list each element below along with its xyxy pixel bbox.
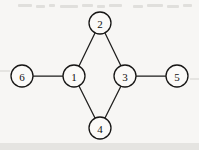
graph-canvas: 123456 <box>0 0 199 150</box>
edge-1-2 <box>79 33 95 66</box>
edge-4-3 <box>105 86 121 118</box>
node-label-5: 5 <box>174 71 180 83</box>
node-label-4: 4 <box>97 123 103 135</box>
node-label-6: 6 <box>19 71 25 83</box>
graph-node-6: 6 <box>11 65 33 87</box>
edge-2-3 <box>105 33 121 66</box>
edge-1-4 <box>79 86 95 118</box>
node-label-1: 1 <box>71 71 77 83</box>
node-label-3: 3 <box>122 71 128 83</box>
graph-node-3: 3 <box>114 65 136 87</box>
graph-node-5: 5 <box>166 65 188 87</box>
graph-node-4: 4 <box>89 117 111 139</box>
graph-node-2: 2 <box>89 12 111 34</box>
graph-edges-group <box>33 33 166 118</box>
node-label-2: 2 <box>97 18 103 30</box>
graph-node-1: 1 <box>63 65 85 87</box>
graph-diagram-figure: 123456 <box>0 0 199 150</box>
